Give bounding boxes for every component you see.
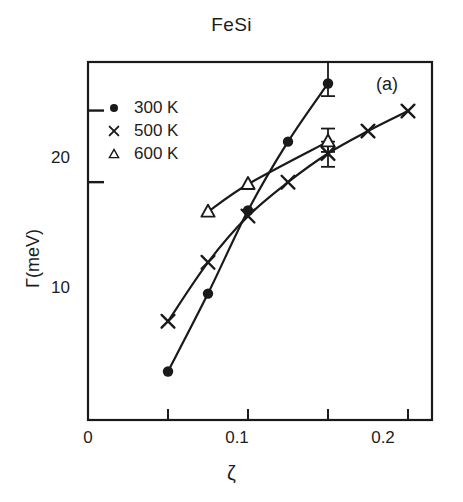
data-point-marker — [201, 205, 214, 217]
data-point-marker — [323, 78, 333, 88]
series-line — [168, 83, 328, 371]
plot-canvas — [0, 0, 463, 502]
data-point-marker — [163, 366, 173, 376]
data-point-marker — [362, 125, 375, 138]
series-line — [208, 142, 328, 212]
series-300-k — [163, 62, 335, 377]
series-600-k — [201, 129, 335, 217]
data-point-marker — [241, 177, 254, 189]
data-point-marker — [203, 288, 213, 298]
data-point-marker — [202, 256, 215, 269]
data-point-marker — [162, 315, 175, 328]
data-point-marker — [282, 176, 295, 189]
figure-panel: FeSi Γ(meV) ζ (a) 20 10 0 0.1 0.2 300 K … — [0, 0, 463, 502]
data-point-marker — [283, 136, 293, 146]
data-point-marker — [402, 105, 415, 118]
data-series-layer — [162, 62, 415, 377]
data-point-marker — [321, 134, 334, 146]
plot-frame — [88, 62, 432, 420]
axis-ticks — [88, 111, 408, 420]
